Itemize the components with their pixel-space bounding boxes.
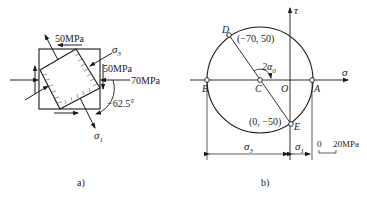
sigma3-arrow-left (25, 86, 48, 100)
point-C (258, 78, 263, 83)
point-B (205, 78, 210, 83)
angle-label: −62.5° (107, 98, 134, 109)
label-D: D (221, 24, 230, 35)
right-shear-label: 50MPa (103, 63, 132, 74)
coords-D: (−70, 50) (237, 33, 274, 45)
label-O: O (281, 83, 288, 94)
stress-diagram-canvas: 50MPa 50MPa 70MPa −62.5° σ3 σ1 a) D ( (0, 0, 367, 200)
caption-b: b) (261, 177, 269, 189)
stress-element-square (39, 49, 100, 109)
label-E: E (293, 121, 300, 132)
scale-value: 20MPa (333, 139, 359, 149)
scale-bar (319, 150, 336, 153)
sigma-axis-label: σ (342, 66, 348, 78)
coords-E: (0, −50) (249, 116, 281, 128)
top-shear-label: 50MPa (55, 33, 84, 44)
figure-b-mohr-circle: D (−70, 50) E (0, −50) B C O A σ τ 2α0 σ… (190, 4, 359, 189)
sigma1-dim-label: σ1 (295, 140, 304, 155)
tau-axis-label: τ (294, 4, 299, 16)
sigma1-arrow-bottom (80, 98, 95, 128)
label-B: B (202, 83, 208, 94)
caption-a: a) (77, 177, 85, 189)
point-E (289, 122, 294, 127)
figure-a-element: 50MPa 50MPa 70MPa −62.5° σ3 σ1 a) (10, 33, 160, 189)
scale-zero: 0 (317, 139, 322, 149)
hatching (43, 54, 97, 104)
label-A: A (313, 83, 321, 94)
sigma1-label: σ1 (94, 129, 103, 144)
label-C: C (255, 83, 262, 94)
sigma3-dim-label: σ3 (244, 140, 253, 155)
right-normal-label: 70MPa (131, 75, 160, 86)
point-A (310, 78, 315, 83)
sigma3-label: σ3 (112, 43, 121, 58)
